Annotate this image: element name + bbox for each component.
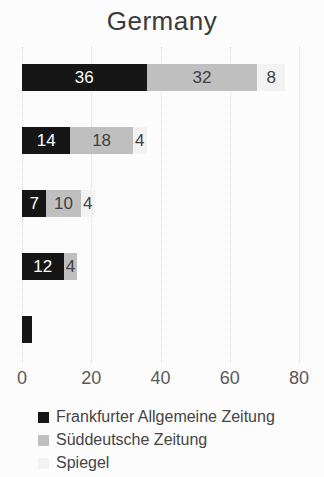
legend-swatch-gray [38,435,49,446]
bar-value-label: 8 [267,69,276,86]
x-tick-label: 80 [275,368,323,389]
bar-segment: 4 [133,127,147,154]
bar-segment: 10 [46,190,81,217]
chart-title: Germany [0,6,324,37]
legend: Frankfurter Allgemeine Zeitung Süddeutsc… [38,408,324,477]
bar-segment: 7 [22,190,46,217]
legend-swatch-lightgray [38,458,49,469]
bar-segment: 36 [22,64,147,91]
bar-row: 14184 [22,127,147,154]
bar-segment: 14 [22,127,70,154]
x-tick-label: 0 [0,368,46,389]
bar-segment [22,316,32,343]
legend-item-sueddeutsche-zeitung: Süddeutsche Zeitung [38,431,324,449]
chart: Germany 36328141847104124 020406080 Fran… [0,0,324,477]
bar-value-label: 12 [33,258,52,275]
bar-segment: 8 [257,64,285,91]
bar-segment: 18 [70,127,132,154]
legend-label: Süddeutsche Zeitung [56,431,207,449]
x-tick-label: 20 [67,368,115,389]
bar-value-label: 10 [54,195,73,212]
bar-value-label: 18 [92,132,111,149]
legend-label: Spiegel [56,454,109,472]
legend-item-frankfurter-allgemeine-zeitung: Frankfurter Allgemeine Zeitung [38,408,324,426]
gridline [161,47,162,363]
bar-segment: 4 [64,253,78,280]
bar-row: 36328 [22,64,285,91]
legend-item-spiegel: Spiegel [38,454,324,472]
bar-segment: 32 [147,64,258,91]
bar-value-label: 4 [83,195,92,212]
bar-value-label: 32 [193,69,212,86]
x-axis: 020406080 [0,368,324,392]
bar-value-label: 36 [75,69,94,86]
x-tick-label: 40 [137,368,185,389]
gridline [299,47,300,363]
bar-value-label: 14 [37,132,56,149]
gridline [230,47,231,363]
legend-swatch-black [38,412,49,423]
bar-value-label: 4 [66,258,75,275]
bar-segment: 4 [81,190,95,217]
legend-label: Frankfurter Allgemeine Zeitung [56,408,275,426]
x-tick-label: 60 [206,368,254,389]
plot-area: 36328141847104124 [0,47,324,363]
bar-value-label: 4 [135,132,144,149]
bar-row: 7104 [22,190,95,217]
bar-row: 124 [22,253,77,280]
bar-segment: 12 [22,253,64,280]
bar-row [22,316,32,343]
bar-value-label: 7 [29,195,38,212]
